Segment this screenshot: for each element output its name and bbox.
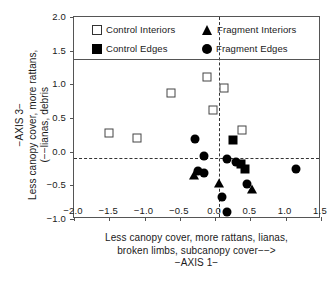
legend-item-fragment-edges[interactable]: Fragment Edges <box>202 43 288 54</box>
x-axis-tick <box>321 217 322 221</box>
data-point-fragment-edges <box>292 164 301 173</box>
x-axis-label-line: broken limbs, subcanopy cover−−> <box>73 245 320 258</box>
legend-divider-line <box>74 59 319 60</box>
data-point-control-interiors <box>105 129 114 138</box>
legend-item-fragment-interiors[interactable]: Fragment Interiors <box>202 24 296 35</box>
plot-frame: Control InteriorsControl EdgesFragment I… <box>73 16 320 218</box>
data-point-fragment-edges <box>199 151 208 160</box>
x-axis-tick <box>250 217 251 221</box>
legend-swatch-square-open-icon <box>92 25 102 35</box>
legend-item-control-interiors[interactable]: Control Interiors <box>92 24 175 35</box>
legend-swatch-circle-filled-icon <box>202 44 212 54</box>
x-tick-label: −1.0 <box>134 205 154 216</box>
y-axis-tick <box>70 17 74 18</box>
data-point-fragment-edges <box>190 134 199 143</box>
x-tick-label: 0.0 <box>207 205 221 216</box>
data-point-fragment-edges <box>232 158 241 167</box>
y-axis-label: −AXIS 3−Less canopy cover, more rattans,… <box>14 20 52 230</box>
scatter-plot-figure: Control InteriorsControl EdgesFragment I… <box>0 0 332 288</box>
x-axis-label-line: −AXIS 1− <box>73 257 320 270</box>
data-point-fragment-edges <box>223 207 232 216</box>
y-tick-label: 1.5 <box>52 44 66 55</box>
x-tick-label: 1.5 <box>313 205 327 216</box>
x-axis-tick <box>215 217 216 221</box>
data-point-control-edges <box>241 164 250 173</box>
x-axis-label-line: Less canopy cover, more rattans, lianas, <box>73 232 320 245</box>
y-tick-label: 1.0 <box>52 78 66 89</box>
y-axis-label-line: Less canopy cover, more rattans, <box>27 20 40 230</box>
data-point-control-interiors <box>167 89 176 98</box>
data-point-control-interiors <box>219 84 228 93</box>
y-axis-tick <box>70 118 74 119</box>
legend-label: Control Edges <box>106 43 168 54</box>
data-point-fragment-edges <box>223 155 232 164</box>
data-point-control-interiors <box>203 72 212 81</box>
x-axis-tick <box>74 217 75 221</box>
data-point-control-interiors <box>209 105 218 114</box>
y-axis-tick <box>70 51 74 52</box>
y-tick-label: 0.5 <box>52 112 66 123</box>
legend-swatch-triangle-filled-icon <box>202 25 212 35</box>
y-axis-tick <box>70 84 74 85</box>
data-point-fragment-edges <box>199 168 208 177</box>
y-axis-label-line: (−−lianas, debris <box>39 20 52 230</box>
x-tick-label: −2.0 <box>63 205 83 216</box>
x-axis-tick <box>180 217 181 221</box>
y-axis-tick <box>70 219 74 220</box>
horizontal-reference-line <box>74 158 319 159</box>
data-point-fragment-edges <box>242 179 251 188</box>
y-axis-tick <box>70 185 74 186</box>
x-axis-tick <box>286 217 287 221</box>
x-tick-label: 0.5 <box>243 205 257 216</box>
x-tick-label: −0.5 <box>169 205 189 216</box>
legend-item-control-edges[interactable]: Control Edges <box>92 43 168 54</box>
y-tick-label: 0.0 <box>52 145 66 156</box>
legend-label: Control Interiors <box>106 24 175 35</box>
x-axis-tick <box>145 217 146 221</box>
x-tick-label: −1.5 <box>99 205 119 216</box>
data-point-control-edges <box>228 136 237 145</box>
y-axis-label-line: −AXIS 3− <box>14 20 27 230</box>
x-axis-tick <box>109 217 110 221</box>
data-point-fragment-edges <box>218 192 227 201</box>
data-point-fragment-interiors <box>214 178 224 187</box>
y-axis-tick <box>70 152 74 153</box>
y-tick-label: 2.0 <box>52 11 66 22</box>
x-tick-label: 1.0 <box>278 205 292 216</box>
data-point-control-interiors <box>132 133 141 142</box>
legend-label: Fragment Interiors <box>217 24 296 35</box>
data-point-control-interiors <box>237 126 246 135</box>
legend-label: Fragment Edges <box>216 43 288 54</box>
x-axis-label: Less canopy cover, more rattans, lianas,… <box>73 232 320 270</box>
legend-swatch-square-filled-icon <box>92 44 102 54</box>
